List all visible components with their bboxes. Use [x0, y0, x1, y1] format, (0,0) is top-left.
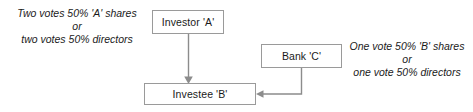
annotation-investor-a-votes: Two votes 50% 'A' shares or two votes 50… [6, 7, 148, 46]
arrowhead-left-investee-b [256, 90, 264, 98]
node-investor-a-label: Investor 'A' [162, 16, 214, 28]
node-bank-c-label: Bank 'C' [282, 50, 321, 62]
node-bank-c[interactable]: Bank 'C' [261, 44, 342, 68]
annotation-investor-a-line-2: or [6, 20, 148, 33]
annotation-bank-c-line-3: one vote 50% directors [342, 66, 472, 79]
node-investor-a[interactable]: Investor 'A' [152, 10, 224, 34]
connector-bank-c-to-investee-b [261, 68, 302, 94]
annotation-bank-c-votes: One vote 50% 'B' shares or one vote 50% … [342, 40, 472, 79]
diagram-canvas: Investor 'A' Bank 'C' Investee 'B' Two v… [0, 0, 473, 112]
node-investee-b-label: Investee 'B' [173, 88, 228, 100]
annotation-bank-c-line-1: One vote 50% 'B' shares [342, 40, 472, 53]
annotation-investor-a-line-3: two votes 50% directors [6, 33, 148, 46]
node-investee-b[interactable]: Investee 'B' [144, 83, 256, 105]
annotation-bank-c-line-2: or [342, 53, 472, 66]
annotation-investor-a-line-1: Two votes 50% 'A' shares [6, 7, 148, 20]
